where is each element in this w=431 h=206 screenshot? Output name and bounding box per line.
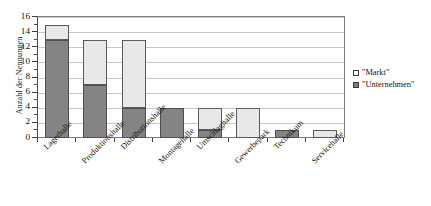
- legend-item-unternehmen: "Unternehmen": [353, 79, 431, 90]
- bar-segment-markt[interactable]: [83, 40, 107, 85]
- y-tick-label: 8: [25, 72, 30, 81]
- x-tick: [228, 138, 229, 142]
- y-axis: 0246810121416: [0, 16, 37, 138]
- y-tick-label: 14: [21, 27, 30, 36]
- x-tick: [305, 138, 306, 142]
- y-tick-label: 12: [21, 42, 30, 51]
- bar-segment-markt[interactable]: [45, 25, 69, 40]
- y-tick-label: 10: [21, 57, 30, 66]
- x-tick: [190, 138, 191, 142]
- legend-label-unternehmen: "Unternehmen": [362, 80, 414, 89]
- x-tick: [37, 138, 38, 142]
- x-tick: [267, 138, 268, 142]
- x-tick: [152, 138, 153, 142]
- y-tick-label: 6: [25, 87, 30, 96]
- x-tick: [114, 138, 115, 142]
- x-tick: [75, 138, 76, 142]
- y-tick-label: 0: [25, 133, 30, 142]
- bar-segment-markt[interactable]: [122, 40, 146, 108]
- bar-group[interactable]: [83, 40, 107, 138]
- legend-swatch-markt-icon: [353, 70, 359, 76]
- chart-container: Anzahl der Nennungen 0246810121416 Lager…: [0, 0, 431, 206]
- bar-segment-unternehmen[interactable]: [83, 85, 107, 138]
- y-tick-label: 4: [25, 102, 30, 111]
- x-tick: [343, 138, 344, 142]
- chart-legend: "Markt" "Unternehmen": [353, 67, 431, 91]
- legend-label-markt: "Markt": [362, 68, 389, 77]
- legend-item-markt: "Markt": [353, 67, 431, 78]
- y-tick-label: 2: [25, 117, 30, 126]
- legend-swatch-unternehmen-icon: [353, 82, 359, 88]
- x-axis-labels: LagerhalleProduktionshalleDistributionsh…: [0, 143, 431, 206]
- y-tick-label: 16: [21, 12, 30, 21]
